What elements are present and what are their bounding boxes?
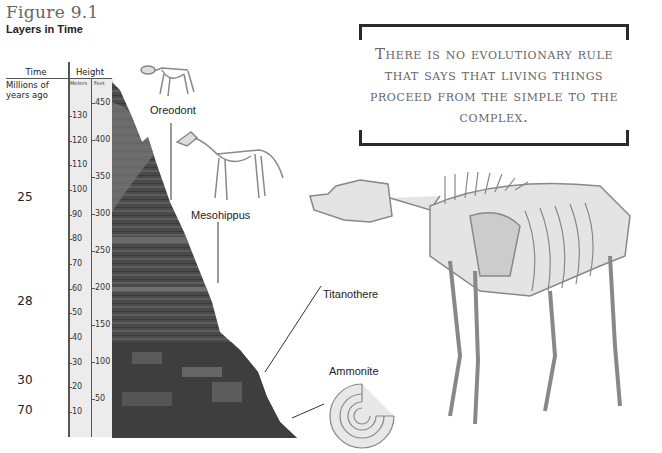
titanothere-label: Titanothere <box>323 288 378 300</box>
ammonite-shell-icon <box>328 382 396 450</box>
oreodont-label: Oreodont <box>150 104 196 116</box>
quote-border-top <box>359 24 629 27</box>
pull-quote: There is no evolutionary rule that says … <box>359 24 629 146</box>
oreodont-skeleton-icon <box>140 62 200 102</box>
ammonite-label: Ammonite <box>329 365 379 377</box>
quote-corner <box>626 24 629 40</box>
quote-corner <box>359 24 362 40</box>
quote-corner <box>359 130 362 146</box>
quote-text: There is no evolutionary rule that says … <box>369 44 619 128</box>
quote-corner <box>626 130 629 146</box>
quote-border-bottom <box>359 143 629 146</box>
mesohippus-skeleton-icon <box>175 128 287 204</box>
mesohippus-label: Mesohippus <box>191 209 250 221</box>
